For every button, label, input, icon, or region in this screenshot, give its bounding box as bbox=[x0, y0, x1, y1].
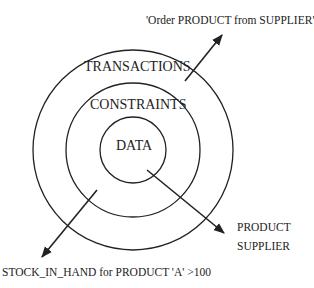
constraint-arrow bbox=[42, 190, 97, 257]
constraints-label: CONSTRAINTS bbox=[90, 97, 186, 113]
constraint-example-label: STOCK_IN_HAND for PRODUCT 'A' >100 bbox=[2, 266, 211, 278]
transaction-example-label: 'Order PRODUCT from SUPPLIER' bbox=[146, 14, 314, 26]
product-label: PRODUCT bbox=[237, 221, 291, 233]
diagram-canvas: 'Order PRODUCT from SUPPLIER' TRANSACTIO… bbox=[0, 0, 314, 288]
supplier-label: SUPPLIER bbox=[237, 240, 290, 252]
transactions-label: TRANSACTIONS bbox=[84, 59, 191, 75]
data-arrow bbox=[147, 170, 224, 233]
data-label: DATA bbox=[116, 138, 152, 154]
